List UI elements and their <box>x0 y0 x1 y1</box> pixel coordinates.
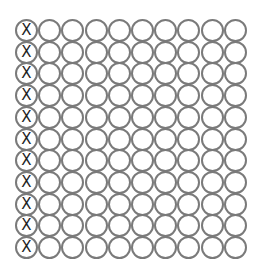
empty-circle[interactable] <box>177 41 200 64</box>
empty-circle[interactable] <box>85 62 108 85</box>
empty-circle[interactable] <box>38 62 61 85</box>
empty-circle[interactable] <box>224 19 247 42</box>
empty-circle[interactable] <box>108 149 131 172</box>
empty-circle[interactable] <box>224 236 247 259</box>
empty-circle[interactable] <box>61 106 84 129</box>
empty-circle[interactable] <box>224 193 247 216</box>
empty-circle[interactable] <box>61 149 84 172</box>
marked-circle[interactable]: X <box>15 171 38 194</box>
marked-circle[interactable]: X <box>15 236 38 259</box>
empty-circle[interactable] <box>201 193 224 216</box>
marked-circle[interactable]: X <box>15 149 38 172</box>
empty-circle[interactable] <box>177 171 200 194</box>
empty-circle[interactable] <box>38 84 61 107</box>
empty-circle[interactable] <box>85 84 108 107</box>
empty-circle[interactable] <box>108 236 131 259</box>
empty-circle[interactable] <box>224 84 247 107</box>
empty-circle[interactable] <box>85 106 108 129</box>
empty-circle[interactable] <box>38 106 61 129</box>
empty-circle[interactable] <box>85 171 108 194</box>
empty-circle[interactable] <box>38 214 61 237</box>
empty-circle[interactable] <box>201 62 224 85</box>
empty-circle[interactable] <box>85 149 108 172</box>
empty-circle[interactable] <box>201 128 224 151</box>
empty-circle[interactable] <box>61 171 84 194</box>
empty-circle[interactable] <box>108 171 131 194</box>
empty-circle[interactable] <box>108 19 131 42</box>
marked-circle[interactable]: X <box>15 106 38 129</box>
empty-circle[interactable] <box>131 106 154 129</box>
empty-circle[interactable] <box>131 128 154 151</box>
empty-circle[interactable] <box>131 19 154 42</box>
marked-circle[interactable]: X <box>15 214 38 237</box>
empty-circle[interactable] <box>131 149 154 172</box>
empty-circle[interactable] <box>38 149 61 172</box>
empty-circle[interactable] <box>154 149 177 172</box>
empty-circle[interactable] <box>154 193 177 216</box>
empty-circle[interactable] <box>154 41 177 64</box>
empty-circle[interactable] <box>154 214 177 237</box>
empty-circle[interactable] <box>154 106 177 129</box>
marked-circle[interactable]: X <box>15 19 38 42</box>
marked-circle[interactable]: X <box>15 62 38 85</box>
empty-circle[interactable] <box>154 236 177 259</box>
empty-circle[interactable] <box>131 236 154 259</box>
empty-circle[interactable] <box>61 193 84 216</box>
empty-circle[interactable] <box>38 41 61 64</box>
empty-circle[interactable] <box>177 84 200 107</box>
empty-circle[interactable] <box>177 106 200 129</box>
empty-circle[interactable] <box>177 19 200 42</box>
empty-circle[interactable] <box>61 41 84 64</box>
empty-circle[interactable] <box>131 214 154 237</box>
empty-circle[interactable] <box>201 84 224 107</box>
empty-circle[interactable] <box>224 106 247 129</box>
empty-circle[interactable] <box>85 19 108 42</box>
empty-circle[interactable] <box>154 62 177 85</box>
empty-circle[interactable] <box>38 19 61 42</box>
empty-circle[interactable] <box>38 236 61 259</box>
empty-circle[interactable] <box>85 128 108 151</box>
empty-circle[interactable] <box>131 62 154 85</box>
empty-circle[interactable] <box>201 214 224 237</box>
empty-circle[interactable] <box>61 128 84 151</box>
empty-circle[interactable] <box>201 149 224 172</box>
empty-circle[interactable] <box>177 149 200 172</box>
empty-circle[interactable] <box>177 193 200 216</box>
empty-circle[interactable] <box>131 41 154 64</box>
empty-circle[interactable] <box>177 128 200 151</box>
empty-circle[interactable] <box>108 62 131 85</box>
empty-circle[interactable] <box>224 128 247 151</box>
empty-circle[interactable] <box>61 236 84 259</box>
marked-circle[interactable]: X <box>15 41 38 64</box>
empty-circle[interactable] <box>108 41 131 64</box>
empty-circle[interactable] <box>38 171 61 194</box>
empty-circle[interactable] <box>85 193 108 216</box>
empty-circle[interactable] <box>201 106 224 129</box>
empty-circle[interactable] <box>61 84 84 107</box>
empty-circle[interactable] <box>85 214 108 237</box>
marked-circle[interactable]: X <box>15 84 38 107</box>
empty-circle[interactable] <box>201 171 224 194</box>
empty-circle[interactable] <box>177 62 200 85</box>
empty-circle[interactable] <box>61 62 84 85</box>
empty-circle[interactable] <box>108 106 131 129</box>
empty-circle[interactable] <box>108 214 131 237</box>
empty-circle[interactable] <box>131 171 154 194</box>
empty-circle[interactable] <box>38 128 61 151</box>
empty-circle[interactable] <box>131 84 154 107</box>
empty-circle[interactable] <box>85 236 108 259</box>
empty-circle[interactable] <box>201 41 224 64</box>
empty-circle[interactable] <box>154 128 177 151</box>
empty-circle[interactable] <box>108 128 131 151</box>
empty-circle[interactable] <box>61 214 84 237</box>
empty-circle[interactable] <box>224 62 247 85</box>
empty-circle[interactable] <box>85 41 108 64</box>
empty-circle[interactable] <box>154 19 177 42</box>
empty-circle[interactable] <box>201 19 224 42</box>
empty-circle[interactable] <box>154 171 177 194</box>
empty-circle[interactable] <box>224 214 247 237</box>
empty-circle[interactable] <box>224 41 247 64</box>
empty-circle[interactable] <box>177 236 200 259</box>
empty-circle[interactable] <box>224 149 247 172</box>
empty-circle[interactable] <box>201 236 224 259</box>
